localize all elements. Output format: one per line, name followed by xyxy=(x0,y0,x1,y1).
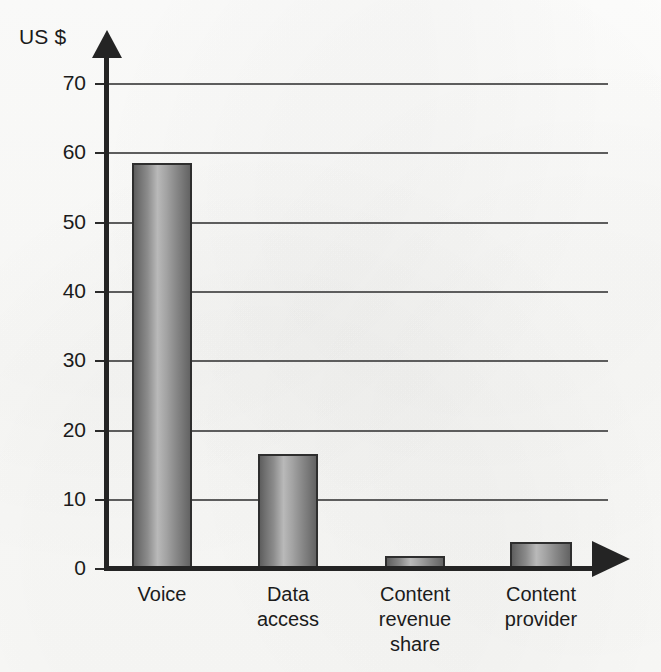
gridline-60 xyxy=(107,152,608,154)
x-category-label-content-revenue-share-line2: revenue xyxy=(355,607,475,632)
y-tick-label-40: 40 xyxy=(30,280,86,301)
y-tick-label-60: 60 xyxy=(30,141,86,162)
y-tick-label-20: 20 xyxy=(30,419,86,440)
x-category-label-content-revenue-share-line3: share xyxy=(355,632,475,657)
y-tick-label-70: 70 xyxy=(30,72,86,93)
x-category-label-content-revenue-share: Content revenue share xyxy=(355,582,475,657)
x-category-label-content-provider: Content provider xyxy=(481,582,601,632)
y-tick-label-50: 50 xyxy=(30,211,86,232)
x-category-label-content-revenue-share-line1: Content xyxy=(355,582,475,607)
x-axis-line xyxy=(104,566,596,571)
x-category-label-content-provider-line1: Content xyxy=(481,582,601,607)
x-category-label-data-access: Data access xyxy=(228,582,348,632)
x-category-label-data-access-line1: Data xyxy=(228,582,348,607)
y-tick-label-30: 30 xyxy=(30,349,86,370)
bar-data-access[interactable] xyxy=(258,454,318,568)
arrow-up-icon xyxy=(92,30,122,58)
arrow-right-icon xyxy=(592,541,630,577)
bar-content-provider[interactable] xyxy=(510,542,572,568)
paper-texture xyxy=(0,0,661,672)
x-category-label-content-provider-line2: provider xyxy=(481,607,601,632)
y-tick-label-10: 10 xyxy=(30,488,86,509)
bar-voice[interactable] xyxy=(132,163,192,568)
gridline-70 xyxy=(107,83,608,85)
bar-chart-figure: US $ 70 60 50 40 30 20 10 0 xyxy=(0,0,661,672)
y-axis-line xyxy=(104,52,109,570)
x-category-label-voice: Voice xyxy=(102,582,222,607)
y-tick-label-0: 0 xyxy=(30,557,86,578)
x-category-label-data-access-line2: access xyxy=(228,607,348,632)
x-category-label-voice-line1: Voice xyxy=(102,582,222,607)
y-axis-title: US $ xyxy=(19,25,67,49)
